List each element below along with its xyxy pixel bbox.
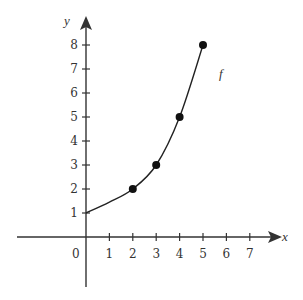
- y-tick-label: 6: [70, 86, 78, 100]
- data-point: [152, 161, 160, 169]
- curve-label-f: f: [219, 66, 225, 81]
- x-axis-label: x: [281, 229, 288, 244]
- y-tick-label: 7: [70, 62, 78, 76]
- x-tick-label: 5: [199, 247, 207, 261]
- y-tick-label: 5: [70, 110, 78, 124]
- data-point: [199, 41, 207, 49]
- curve-f: [86, 45, 203, 213]
- x-tick-label: 3: [152, 247, 160, 261]
- origin-label: 0: [72, 247, 80, 261]
- x-tick-label: 2: [129, 247, 137, 261]
- function-graph: 123456712345678 x y 0 f: [0, 0, 303, 300]
- curve-path: [86, 45, 203, 213]
- y-tick-label: 4: [70, 134, 78, 148]
- y-axis-label: y: [62, 13, 70, 28]
- x-tick-label: 4: [176, 247, 184, 261]
- y-tick-label: 1: [70, 206, 78, 220]
- x-tick-label: 1: [106, 247, 114, 261]
- y-tick-label: 3: [70, 158, 78, 172]
- y-tick-label: 8: [70, 38, 78, 52]
- x-tick-label: 7: [246, 247, 254, 261]
- axes: [17, 16, 282, 287]
- data-point: [129, 185, 137, 193]
- x-tick-label: 6: [223, 247, 231, 261]
- y-tick-label: 2: [70, 182, 78, 196]
- data-points: [129, 41, 207, 193]
- ticks: 123456712345678: [70, 38, 253, 261]
- data-point: [176, 113, 184, 121]
- labels: x y 0 f: [62, 13, 288, 261]
